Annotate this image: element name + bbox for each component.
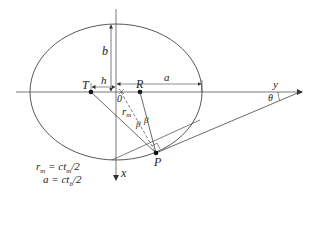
label-y-axis: y xyxy=(272,78,278,90)
equation-a: a = ctb/2 xyxy=(43,173,81,191)
label-b: b xyxy=(102,44,108,58)
ray-P-to-y-axis xyxy=(156,92,300,153)
label-beta-left: β xyxy=(135,119,141,129)
theta-arc xyxy=(278,92,280,101)
label-a: a xyxy=(164,71,170,83)
label-T: T xyxy=(82,78,90,92)
label-x-axis: x xyxy=(120,166,127,180)
label-P: P xyxy=(153,155,162,169)
label-theta: θ xyxy=(268,92,273,103)
label-h: h xyxy=(101,74,107,86)
label-origin: 0 xyxy=(117,93,122,104)
label-R: R xyxy=(135,77,144,91)
label-beta-right: β xyxy=(143,115,149,125)
